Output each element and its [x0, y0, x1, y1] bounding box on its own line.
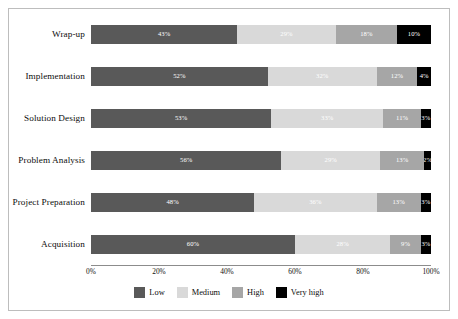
segment-value-label: 48% [166, 199, 178, 206]
segment-value-label: 3% [421, 115, 430, 122]
bar-row: Problem Analysis56%29%13%2% [9, 139, 449, 181]
x-axis-tick-label: 60% [288, 267, 302, 276]
bar-segment-very-high: 10% [397, 25, 431, 44]
segment-value-label: 33% [321, 115, 333, 122]
plot-area: Wrap-up43%29%18%10%Implementation52%32%1… [8, 8, 450, 311]
x-axis-tick-label: 80% [356, 267, 370, 276]
segment-value-label: 4% [420, 73, 429, 80]
bar-row: Solution Design53%33%11%3% [9, 97, 449, 139]
bar-segment-high: 18% [336, 25, 397, 44]
legend-label: Medium [192, 288, 220, 297]
bar-track: 60%28%9%3% [91, 235, 431, 254]
bar-row: Wrap-up43%29%18%10% [9, 13, 449, 55]
category-label: Project Preparation [9, 197, 91, 207]
bar-track: 56%29%13%2% [91, 151, 431, 170]
bar-segment-low: 43% [91, 25, 237, 44]
legend-item-high[interactable]: High [232, 287, 264, 298]
category-label: Implementation [9, 71, 91, 81]
bar-segment-high: 13% [377, 193, 421, 212]
x-axis-tick-label: 0% [86, 267, 96, 276]
x-axis-tick-label: 100% [422, 267, 439, 276]
segment-value-label: 13% [392, 199, 404, 206]
bar-segment-medium: 32% [268, 67, 377, 86]
segment-value-label: 56% [180, 157, 192, 164]
segment-value-label: 12% [391, 73, 403, 80]
bar-segment-medium: 28% [295, 235, 390, 254]
bar-segment-high: 9% [390, 235, 421, 254]
bar-track: 53%33%11%3% [91, 109, 431, 128]
bar-segment-low: 48% [91, 193, 254, 212]
bar-segment-high: 13% [380, 151, 424, 170]
legend-label: High [247, 288, 264, 297]
segment-value-label: 10% [408, 31, 420, 38]
stacked-bar-chart: Wrap-up43%29%18%10%Implementation52%32%1… [0, 0, 458, 319]
legend-item-medium[interactable]: Medium [177, 287, 220, 298]
bar-segment-high: 12% [377, 67, 418, 86]
legend-swatch-icon [232, 287, 243, 298]
segment-value-label: 9% [401, 241, 410, 248]
legend-label: Low [149, 288, 164, 297]
bar-segment-very-high: 3% [421, 235, 431, 254]
bar-track: 48%36%13%3% [91, 193, 431, 212]
x-axis: 0%20%40%60%80%100% [91, 265, 431, 283]
bar-segment-medium: 29% [237, 25, 336, 44]
segment-value-label: 29% [324, 157, 336, 164]
category-label: Solution Design [9, 113, 91, 123]
segment-value-label: 2% [424, 157, 431, 164]
segment-value-label: 60% [187, 241, 199, 248]
bar-segment-high: 11% [383, 109, 420, 128]
legend-swatch-icon [177, 287, 188, 298]
bar-segment-very-high: 3% [421, 193, 431, 212]
segment-value-label: 43% [158, 31, 170, 38]
bar-segment-medium: 33% [271, 109, 383, 128]
bar-segment-low: 60% [91, 235, 295, 254]
bar-segment-medium: 29% [281, 151, 380, 170]
x-axis-tick-label: 40% [220, 267, 234, 276]
chart-legend: LowMediumHighVery high [9, 287, 449, 298]
legend-item-very-high[interactable]: Very high [276, 287, 324, 298]
x-axis-line [91, 265, 431, 266]
x-axis-tick-label: 20% [152, 267, 166, 276]
bar-segment-medium: 36% [254, 193, 376, 212]
legend-label: Very high [291, 288, 324, 297]
bar-segment-low: 52% [91, 67, 268, 86]
bar-segment-low: 56% [91, 151, 281, 170]
bar-segment-very-high: 3% [421, 109, 431, 128]
legend-swatch-icon [134, 287, 145, 298]
bar-row: Acquisition60%28%9%3% [9, 223, 449, 265]
legend-item-low[interactable]: Low [134, 287, 164, 298]
segment-value-label: 18% [360, 31, 372, 38]
bar-track: 52%32%12%4% [91, 67, 431, 86]
segment-value-label: 52% [173, 73, 185, 80]
bar-segment-low: 53% [91, 109, 271, 128]
category-label: Problem Analysis [9, 155, 91, 165]
category-label: Wrap-up [9, 29, 91, 39]
segment-value-label: 36% [309, 199, 321, 206]
segment-value-label: 13% [396, 157, 408, 164]
bar-track: 43%29%18%10% [91, 25, 431, 44]
bar-segment-very-high: 2% [424, 151, 431, 170]
segment-value-label: 32% [316, 73, 328, 80]
segment-value-label: 53% [175, 115, 187, 122]
segment-value-label: 11% [396, 115, 408, 122]
bar-segment-very-high: 4% [417, 67, 431, 86]
legend-swatch-icon [276, 287, 287, 298]
bar-row: Implementation52%32%12%4% [9, 55, 449, 97]
segment-value-label: 28% [336, 241, 348, 248]
segment-value-label: 29% [280, 31, 292, 38]
segment-value-label: 3% [421, 199, 430, 206]
segment-value-label: 3% [421, 241, 430, 248]
bar-row: Project Preparation48%36%13%3% [9, 181, 449, 223]
bar-rows: Wrap-up43%29%18%10%Implementation52%32%1… [9, 13, 449, 265]
category-label: Acquisition [9, 239, 91, 249]
